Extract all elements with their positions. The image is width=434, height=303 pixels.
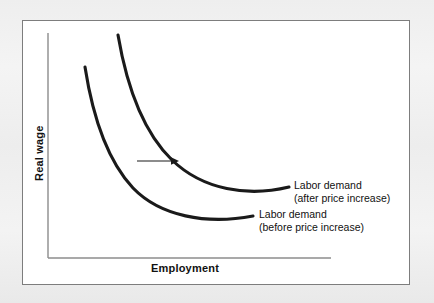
- shift-arrow-icon: [137, 157, 179, 165]
- series-label-after-price-increase: Labor demand (after price increase): [294, 179, 390, 204]
- curve-labor-demand-after: [118, 35, 289, 191]
- curve-labor-demand-before: [85, 67, 253, 219]
- series-label-before-price-increase: Labor demand (before price increase): [259, 208, 364, 233]
- y-axis-label: Real wage: [33, 125, 45, 181]
- series-label-after-line2: (after price increase): [294, 192, 390, 205]
- figure-root: Real wage Employment Labor demand (after…: [0, 0, 434, 303]
- chart-canvas: [0, 0, 434, 303]
- series-label-before-line1: Labor demand: [259, 208, 364, 221]
- series-label-before-line2: (before price increase): [259, 221, 364, 234]
- x-axis-label: Employment: [151, 262, 219, 274]
- series-label-after-line1: Labor demand: [294, 179, 390, 192]
